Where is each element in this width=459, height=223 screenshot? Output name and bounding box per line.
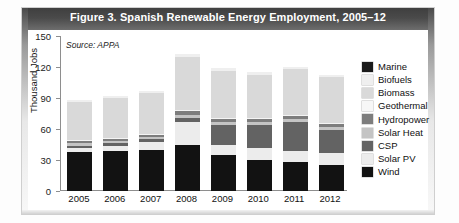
bar-segment-biomass[interactable]: [175, 57, 200, 111]
bar-segment-csp[interactable]: [139, 139, 164, 142]
bar-segment-geothermal[interactable]: [175, 110, 200, 111]
y-tick: 30: [56, 160, 60, 161]
legend-item[interactable]: Biomass: [362, 86, 458, 99]
bar-segment-biomass[interactable]: [139, 93, 164, 134]
bar-segment-solar-heat[interactable]: [211, 122, 236, 125]
bar-segment-csp[interactable]: [67, 146, 92, 148]
legend-swatch: [362, 75, 373, 85]
bar-segment-geothermal[interactable]: [103, 138, 128, 139]
y-tick-label: 120: [35, 62, 51, 73]
y-tick-label: 0: [46, 186, 51, 197]
plot-area: Source: APPA 0306090120150 2005200620072…: [60, 36, 347, 191]
bar-segment-biofuels[interactable]: [103, 96, 128, 98]
bar-stack[interactable]: [103, 96, 128, 191]
bar-segment-wind[interactable]: [139, 150, 164, 191]
legend-label: CSP: [378, 141, 398, 151]
bar-segment-hydropower[interactable]: [103, 139, 128, 141]
bar-segment-wind[interactable]: [319, 165, 344, 191]
bar-segment-geothermal[interactable]: [319, 123, 344, 124]
bar-segment-biomass[interactable]: [319, 77, 344, 122]
bar-segment-biomass[interactable]: [67, 102, 92, 140]
bar-segment-wind[interactable]: [103, 151, 128, 191]
bar-stack[interactable]: [175, 54, 200, 191]
bar-segment-csp[interactable]: [283, 122, 308, 151]
bar-stack[interactable]: [139, 91, 164, 191]
bar-segment-geothermal[interactable]: [139, 134, 164, 135]
bar-stack[interactable]: [319, 75, 344, 191]
bar-segment-geothermal[interactable]: [67, 140, 92, 141]
figure-container: Figure 3. Spanish Renewable Energy Emplo…: [0, 0, 459, 223]
legend-item[interactable]: Geothermal: [362, 100, 458, 113]
bar-segment-solar-pv[interactable]: [103, 146, 128, 151]
bar-segment-hydropower[interactable]: [319, 124, 344, 127]
bar-segment-biofuels[interactable]: [67, 100, 92, 102]
bar-segment-biomass[interactable]: [247, 75, 272, 117]
y-axis-title: Thousand Jobs: [28, 48, 39, 113]
bar-segment-biofuels[interactable]: [175, 54, 200, 57]
x-axis-label: 2007: [133, 193, 169, 204]
bar-segment-hydropower[interactable]: [175, 111, 200, 114]
legend-item[interactable]: Hydropower: [362, 113, 458, 126]
bar-segment-wind[interactable]: [67, 152, 92, 191]
bar-segment-biofuels[interactable]: [247, 72, 272, 75]
bar-segment-wind[interactable]: [175, 145, 200, 192]
bar-segment-biomass[interactable]: [211, 71, 236, 118]
bar-stack[interactable]: [67, 100, 92, 191]
bar-segment-biomass[interactable]: [103, 98, 128, 138]
bar-segment-biofuels[interactable]: [283, 67, 308, 69]
bar-stack[interactable]: [211, 68, 236, 191]
bar-segment-solar-heat[interactable]: [103, 141, 128, 143]
bar-segment-solar-pv[interactable]: [319, 153, 344, 165]
bar-segment-biomass[interactable]: [283, 69, 308, 114]
bar-segment-solar-pv[interactable]: [175, 122, 200, 145]
bar-segment-wind[interactable]: [247, 160, 272, 191]
legend-label: Wind: [378, 167, 400, 177]
bar-segment-hydropower[interactable]: [211, 119, 236, 122]
legend-item[interactable]: Solar PV: [362, 152, 458, 165]
bar-segment-geothermal[interactable]: [211, 118, 236, 119]
bar-segment-biofuels[interactable]: [319, 75, 344, 77]
bar-segment-wind[interactable]: [283, 162, 308, 191]
bar-segment-biofuels[interactable]: [139, 91, 164, 93]
bar-segment-solar-heat[interactable]: [319, 127, 344, 130]
bar-segment-biofuels[interactable]: [211, 68, 236, 71]
bar-segment-csp[interactable]: [247, 125, 272, 148]
bar-segment-solar-pv[interactable]: [67, 148, 92, 152]
legend: MarineBiofuelsBiomassGeothermalHydropowe…: [362, 60, 458, 179]
legend-item[interactable]: Wind: [362, 166, 458, 179]
legend-item[interactable]: Biofuels: [362, 73, 458, 86]
legend-swatch: [362, 88, 373, 98]
bar-segment-solar-heat[interactable]: [283, 119, 308, 122]
bar-stack[interactable]: [283, 67, 308, 191]
legend-label: Biomass: [378, 88, 414, 98]
bar-segment-solar-heat[interactable]: [247, 122, 272, 125]
bar-segment-csp[interactable]: [175, 118, 200, 122]
bar-segment-hydropower[interactable]: [247, 119, 272, 122]
legend-swatch: [362, 114, 373, 124]
x-axis-label: 2009: [205, 193, 241, 204]
legend-item[interactable]: Marine: [362, 60, 458, 73]
bar-segment-geothermal[interactable]: [247, 118, 272, 119]
bar-segment-csp[interactable]: [319, 130, 344, 153]
legend-item[interactable]: Solar Heat: [362, 126, 458, 139]
bar-segment-solar-pv[interactable]: [211, 145, 236, 155]
bar-segment-solar-heat[interactable]: [139, 137, 164, 139]
bar-segment-wind[interactable]: [211, 155, 236, 191]
y-tick: 90: [56, 98, 60, 99]
legend-label: Biofuels: [378, 75, 412, 85]
bar-segment-solar-pv[interactable]: [247, 148, 272, 160]
bar-segment-csp[interactable]: [103, 143, 128, 145]
legend-label: Solar Heat: [378, 128, 423, 138]
bar-segment-hydropower[interactable]: [283, 116, 308, 119]
bar-segment-geothermal[interactable]: [283, 115, 308, 116]
bar-segment-solar-pv[interactable]: [139, 142, 164, 149]
bar-segment-solar-heat[interactable]: [67, 143, 92, 145]
bar-segment-hydropower[interactable]: [67, 141, 92, 143]
bar-segment-hydropower[interactable]: [139, 135, 164, 137]
y-tick-label: 90: [40, 93, 51, 104]
bar-segment-solar-heat[interactable]: [175, 115, 200, 118]
legend-item[interactable]: CSP: [362, 139, 458, 152]
bar-segment-solar-pv[interactable]: [283, 151, 308, 162]
bar-stack[interactable]: [247, 72, 272, 191]
bar-segment-csp[interactable]: [211, 125, 236, 145]
